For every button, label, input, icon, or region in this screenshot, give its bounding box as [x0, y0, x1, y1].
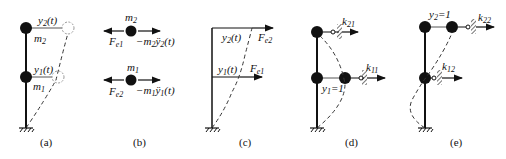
- panel-e: y2=1 k22 k12 (e): [410, 8, 494, 149]
- caption-d: (d): [345, 136, 358, 149]
- panel-c: y2(t) Fe2 y1(t) Fe1 (c): [205, 28, 273, 149]
- ground-support: [19, 128, 34, 132]
- spring-support-bottom: [437, 70, 442, 85]
- panel-b: m2 Fe1 −m2ÿ2(t) m1 Fe2 −m1ÿ1(t) (b): [104, 11, 175, 149]
- label-y2t: y2(t): [221, 31, 242, 45]
- caption-a: (a): [40, 136, 53, 149]
- hinge-bottom: [432, 76, 436, 80]
- mass-m1: [20, 71, 32, 83]
- mass-m2: [20, 22, 32, 34]
- ground-support: [205, 128, 220, 132]
- label-k11: k11: [366, 61, 378, 75]
- free-body-mass-m2: [126, 26, 137, 37]
- ground-support: [418, 128, 433, 132]
- label-b-m1: m1: [127, 61, 139, 75]
- label-y1t: y1(t): [33, 63, 54, 77]
- panel-d: k21 k11 y1=1 (d): [310, 15, 385, 149]
- label-k12: k12: [442, 60, 455, 74]
- label-m1: m1: [33, 80, 45, 94]
- label-y2t: y2(t): [37, 14, 58, 28]
- label-k22: k22: [478, 11, 491, 25]
- deflected-shape: [212, 28, 252, 128]
- displaced-mass-m2: [446, 21, 458, 33]
- ground-support: [310, 128, 325, 132]
- label-k21: k21: [342, 15, 355, 29]
- displaced-mass-m2: [62, 22, 74, 34]
- label-y2-unit: y2=1: [428, 8, 451, 22]
- spring-support-top: [471, 19, 476, 34]
- panel-a: y2(t) m2 y1(t) m1 (a): [19, 14, 74, 149]
- mass-m2: [311, 26, 323, 38]
- label-inertia-1: −m1ÿ1(t): [136, 84, 175, 98]
- hinge-top: [331, 30, 335, 34]
- label-m2: m2: [34, 32, 46, 46]
- label-fe1: Fe1: [249, 62, 264, 76]
- deflected-shape: [410, 33, 452, 128]
- caption-e: (e): [450, 136, 463, 149]
- label-y1-unit: y1=1: [321, 82, 344, 96]
- free-body-mass-m1: [126, 75, 137, 86]
- label-y1t: y1(t): [217, 63, 238, 77]
- caption-c: (c): [239, 136, 252, 149]
- label-fe1: Fe1: [108, 35, 123, 49]
- label-fe2: Fe2: [257, 31, 272, 45]
- hinge-top: [466, 25, 470, 29]
- caption-b: (b): [133, 136, 146, 149]
- label-fe2: Fe2: [108, 85, 123, 99]
- mass-m2: [419, 21, 431, 33]
- label-b-m2: m2: [125, 11, 137, 25]
- two-story-frame-dynamics-diagram: y2(t) m2 y1(t) m1 (a) m2 Fe1 −m2ÿ2(t) m1…: [0, 0, 506, 159]
- label-inertia-2: −m2ÿ2(t): [136, 35, 175, 49]
